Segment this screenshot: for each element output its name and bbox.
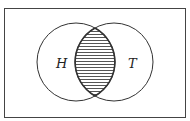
venn-diagram: H T	[0, 0, 190, 121]
set-label-t: T	[128, 56, 138, 71]
set-label-h: H	[55, 56, 68, 71]
